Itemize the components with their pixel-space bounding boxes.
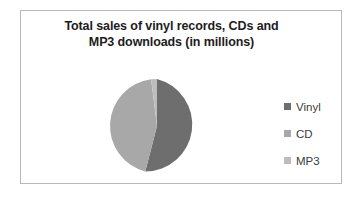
legend-label-vinyl: Vinyl: [296, 101, 321, 113]
chart-title: Total sales of vinyl records, CDs and MP…: [29, 18, 314, 50]
legend-swatch-vinyl: [284, 103, 291, 110]
legend-item-vinyl[interactable]: Vinyl: [284, 96, 342, 117]
legend-swatch-cd: [284, 130, 291, 137]
pie-chart-plot-area: [21, 63, 271, 181]
legend-item-cd[interactable]: CD: [284, 123, 342, 144]
legend-swatch-mp3: [284, 157, 291, 164]
legend-label-cd: CD: [296, 128, 313, 140]
legend-label-mp3: MP3: [296, 155, 320, 167]
chart-legend: Vinyl CD MP3: [284, 96, 342, 177]
chart-title-line-1: Total sales of vinyl records, CDs and: [29, 18, 314, 34]
pie-chart-svg: [21, 63, 271, 181]
legend-item-mp3[interactable]: MP3: [284, 150, 342, 171]
chart-title-line-2: MP3 downloads (in millions): [29, 34, 314, 50]
chart-frame: Total sales of vinyl records, CDs and MP…: [20, 10, 342, 184]
